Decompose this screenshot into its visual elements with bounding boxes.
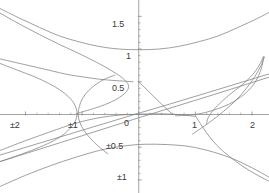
curve-upper-right-branch-outer bbox=[0, 9, 269, 50]
curve-left-opening-branch-inner bbox=[0, 59, 133, 82]
x-tick-label-minus-1: ±1 bbox=[68, 121, 78, 130]
plot-canvas bbox=[0, 0, 269, 193]
curve-downward-arc-lower bbox=[0, 144, 269, 186]
curve-right-opening-branch-upper bbox=[176, 57, 264, 116]
axes-layer bbox=[0, 0, 269, 193]
y-tick-label-1-5: 1.5 bbox=[112, 20, 124, 29]
y-tick-label-1: 1 bbox=[126, 52, 131, 61]
x-tick-label-0: 0 bbox=[124, 119, 129, 128]
y-tick-label-minus-0-5: ±0.5 bbox=[106, 142, 123, 151]
curve-ascending-line-shallower bbox=[0, 77, 269, 161]
curve-right-descending-branch-through-one bbox=[195, 116, 269, 181]
x-tick-label-minus-2: ±2 bbox=[10, 121, 20, 130]
plot-figure: ±2±10121.510.5±0.5±1 bbox=[0, 0, 269, 193]
curves-layer bbox=[0, 9, 269, 187]
y-tick-label-0-5: 0.5 bbox=[112, 84, 124, 93]
curve-descending-segment-from-half bbox=[139, 82, 173, 115]
x-tick-label-2: 2 bbox=[250, 121, 255, 130]
y-tick-label-minus-1: ±1 bbox=[117, 173, 127, 182]
curve-flat-arc-through-origin bbox=[0, 114, 195, 151]
curve-left-opening-branch-lower-outer bbox=[0, 63, 77, 161]
x-tick-label-1: 1 bbox=[192, 121, 197, 130]
